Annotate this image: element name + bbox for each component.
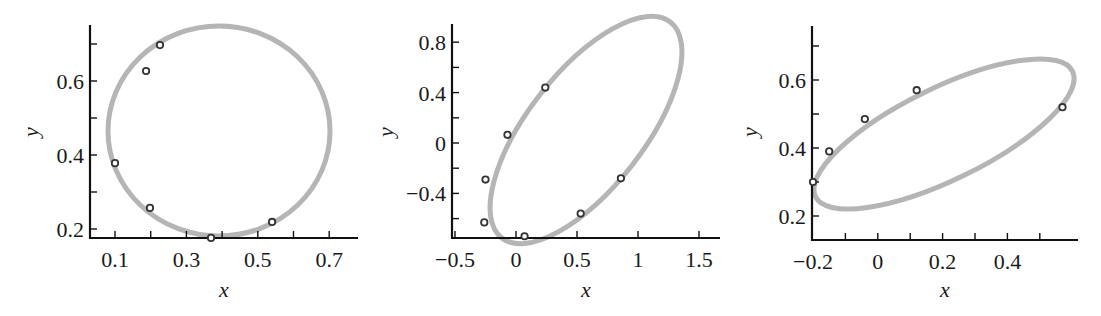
y-axis-label: y [737,127,762,139]
x-tick-label: 0.5 [563,247,591,272]
panel-3-plot: −0.200.20.40.20.40.6xy [737,26,1093,302]
data-point-marker [504,132,510,138]
y-tick-label: 0.4 [419,81,447,106]
x-axis-label: x [939,277,950,302]
y-tick-label: 0.6 [779,68,807,93]
y-tick-label: −0.4 [406,181,446,206]
panel-1-plot: 0.10.30.50.70.20.40.6xy [18,25,358,302]
fitted-ellipse-curve [108,26,330,236]
data-point-marker [143,68,149,74]
y-axis-label: y [373,127,398,139]
y-tick-label: 0.4 [57,143,85,168]
data-point-marker [269,219,275,225]
y-tick-label: 0.8 [419,30,447,55]
panel-2-plot: −0.500.511.50.80.40−0.4xy [373,0,720,302]
data-point-marker [913,87,919,93]
y-tick-label: 0 [435,131,446,156]
x-tick-label: 0.4 [994,249,1022,274]
data-point-marker [482,176,488,182]
data-point-marker [112,160,118,166]
x-tick-label: 0.2 [929,249,957,274]
x-tick-label: 0.1 [101,247,129,272]
x-tick-label: −0.2 [793,249,833,274]
data-point-marker [481,219,487,225]
y-tick-label: 0.4 [779,136,807,161]
y-tick-label: 0.2 [779,204,807,229]
data-point-marker [147,205,153,211]
x-tick-label: 0 [872,249,883,274]
fitted-ellipse-curve [456,0,716,274]
data-point-marker [157,42,163,48]
data-point-marker [521,233,527,239]
data-point-marker [810,179,816,185]
x-tick-label: 1 [633,247,644,272]
x-tick-label: 0.5 [244,247,272,272]
x-tick-label: 1.5 [685,247,713,272]
x-tick-label: 0 [511,247,522,272]
data-point-marker [1059,104,1065,110]
x-axis-label: x [580,277,591,302]
x-axis-label: x [218,277,229,302]
x-tick-label: −0.5 [435,247,475,272]
data-point-marker [542,84,548,90]
y-tick-label: 0.6 [57,69,85,94]
y-tick-label: 0.2 [57,217,85,242]
x-tick-label: 0.7 [315,247,343,272]
fitted-ellipse-curve [795,30,1092,238]
x-tick-label: 0.3 [173,247,201,272]
y-axis-label: y [18,127,43,139]
data-point-marker [826,148,832,154]
data-point-marker [577,210,583,216]
data-point-marker [862,116,868,122]
data-point-marker [618,175,624,181]
figure: 0.10.30.50.70.20.40.6xy −0.500.511.50.80… [0,0,1101,316]
data-point-marker [208,235,214,241]
